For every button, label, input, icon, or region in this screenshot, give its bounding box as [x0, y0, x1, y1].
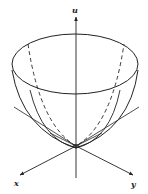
y-axis	[76, 146, 133, 175]
y-axis-back	[50, 133, 76, 146]
rim-ellipse	[12, 34, 138, 94]
paraboloid-diagram: u x y	[0, 0, 148, 194]
inner-parabola-curve-left	[30, 90, 76, 148]
x-axis	[20, 146, 76, 175]
inner-parabola-curve-right	[76, 90, 120, 148]
tangent-line-right	[76, 107, 139, 146]
x-axis-label: x	[13, 178, 19, 188]
outer-parabola-curve	[12, 70, 138, 148]
y-axis-label: y	[130, 179, 137, 189]
u-axis-label: u	[72, 5, 78, 15]
